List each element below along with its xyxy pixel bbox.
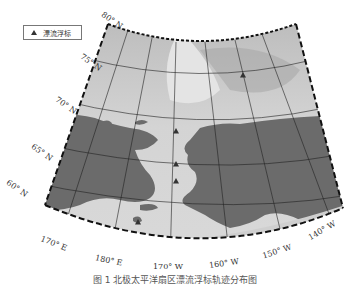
legend-box: 漂流浮标 — [23, 25, 82, 40]
lon-label: 170° W — [153, 262, 183, 271]
figure-caption: 图 1 北极太平洋扇区漂流浮标轨迹分布图 — [0, 273, 350, 286]
legend-label: 漂流浮标 — [43, 28, 71, 38]
triangle-marker-icon — [31, 30, 37, 35]
